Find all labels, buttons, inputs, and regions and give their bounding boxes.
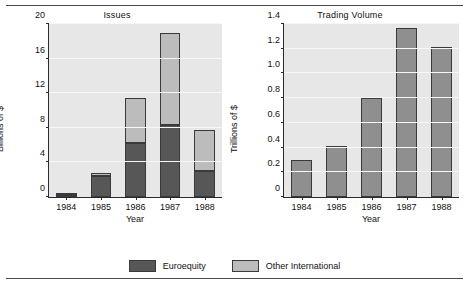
bar-segment-trading-volume-1986[interactable] (361, 98, 382, 197)
chart-legend: EuroequityOther International (0, 260, 469, 272)
x-axis-tick-mark (442, 197, 443, 200)
y-axis-tick-mark (281, 23, 284, 24)
top-divider-rule (6, 5, 463, 6)
x-axis-tick-mark (372, 197, 373, 200)
chart-panel-issues: Issues Billions of $ 0481216201984198519… (4, 8, 230, 240)
gridline (49, 127, 222, 128)
y-axis-label-issues: Billions of $ (0, 106, 5, 152)
y-axis-tick-mark (281, 72, 284, 73)
y-axis-label-trading-volume: Trillions of $ (229, 105, 239, 153)
y-axis-tick-mark (46, 127, 49, 128)
gridline (284, 72, 459, 73)
gridline (49, 23, 222, 24)
bar-1987[interactable] (160, 24, 181, 197)
x-axis-tick-label-1987: 1987 (153, 202, 188, 212)
x-axis-tick-mark (66, 197, 67, 200)
gridline (49, 58, 222, 59)
y-axis-tick-label: 4 (40, 149, 45, 158)
x-axis-tick-mark (205, 197, 206, 200)
bar-segment-trading-volume-1984[interactable] (291, 160, 312, 197)
x-axis-tick-mark (337, 197, 338, 200)
y-axis-tick-label: 1.4 (267, 11, 280, 20)
y-axis-tick-label: 0.2 (267, 159, 280, 168)
y-axis-tick-mark (46, 92, 49, 93)
gridline (49, 92, 222, 93)
legend-item-other-international[interactable]: Other International (232, 260, 341, 272)
y-axis-tick-mark (281, 122, 284, 123)
x-axis-tick-mark (136, 197, 137, 200)
x-axis-tick-label-1986: 1986 (354, 202, 389, 212)
gridline (284, 23, 459, 24)
x-axis-tick-mark (407, 197, 408, 200)
gridline (284, 122, 459, 123)
legend-item-euroequity[interactable]: Euroequity (129, 260, 206, 272)
bar-series-issues (49, 24, 222, 197)
x-axis-tick-mark (170, 197, 171, 200)
y-axis-tick-mark (281, 147, 284, 148)
x-axis-tick-label-1988: 1988 (424, 202, 459, 212)
bar-segment-other-international-1986[interactable] (125, 98, 146, 142)
bar-segment-other-international-1984[interactable] (56, 193, 77, 195)
x-axis-tick-label-1985: 1985 (84, 202, 119, 212)
y-axis-tick-mark (46, 161, 49, 162)
gridline (284, 48, 459, 49)
x-axis-tick-mark (302, 197, 303, 200)
gridline (49, 161, 222, 162)
legend-label: Other International (266, 261, 341, 271)
gridline (284, 97, 459, 98)
gridline (284, 171, 459, 172)
x-axis-label-issues: Year (48, 214, 222, 224)
y-axis-tick-mark (281, 196, 284, 197)
bar-segment-euroequity-1985[interactable] (91, 176, 112, 197)
bar-segment-euroequity-1986[interactable] (125, 143, 146, 197)
legend-swatch-euroequity (129, 260, 156, 272)
bar-1984[interactable] (56, 24, 77, 197)
bar-segment-other-international-1988[interactable] (194, 130, 215, 172)
y-axis-tick-label: 0.4 (267, 134, 280, 143)
y-axis-tick-mark (281, 171, 284, 172)
bar-1985[interactable] (91, 24, 112, 197)
y-axis-tick-mark (46, 196, 49, 197)
chart-panel-trading-volume: Trading Volume Trillions of $ 00.20.40.6… (235, 8, 465, 240)
y-axis-tick-label: 0 (275, 184, 280, 193)
y-axis-tick-label: 20 (35, 11, 45, 20)
plot-area-trading-volume: 00.20.40.60.81.01.21.4198419851986198719… (283, 24, 459, 198)
y-axis-tick-label: 8 (40, 114, 45, 123)
y-axis-tick-mark (46, 23, 49, 24)
x-axis-label-trading-volume: Year (283, 214, 459, 224)
x-axis-tick-mark (101, 197, 102, 200)
x-axis-tick-label-1988: 1988 (187, 202, 222, 212)
bar-segment-euroequity-1988[interactable] (194, 171, 215, 197)
plot-area-issues: 04812162019841985198619871988 (48, 24, 222, 198)
bar-segment-other-international-1987[interactable] (160, 33, 181, 126)
x-axis-tick-label-1987: 1987 (389, 202, 424, 212)
y-axis-tick-label: 1.2 (267, 35, 280, 44)
bottom-divider-rule (6, 278, 463, 279)
x-axis-tick-label-1984: 1984 (284, 202, 319, 212)
bar-1986[interactable] (125, 24, 146, 197)
y-axis-tick-label: 16 (35, 45, 45, 54)
x-axis-tick-label-1986: 1986 (118, 202, 153, 212)
x-axis-tick-label-1985: 1985 (319, 202, 354, 212)
y-axis-tick-label: 0.6 (267, 109, 280, 118)
y-axis-tick-label: 0.8 (267, 85, 280, 94)
gridline (284, 147, 459, 148)
y-axis-tick-mark (281, 48, 284, 49)
bar-1988[interactable] (194, 24, 215, 197)
x-axis-tick-label-1984: 1984 (49, 202, 84, 212)
legend-swatch-other-international (232, 260, 259, 272)
bar-segment-other-international-1985[interactable] (91, 173, 112, 176)
y-axis-tick-label: 12 (35, 80, 45, 89)
y-axis-tick-label: 1.0 (267, 60, 280, 69)
y-axis-tick-mark (46, 58, 49, 59)
figure-container: Issues Billions of $ 0481216201984198519… (0, 0, 469, 286)
y-axis-tick-label: 0 (40, 184, 45, 193)
legend-label: Euroequity (163, 261, 206, 271)
y-axis-tick-mark (281, 97, 284, 98)
